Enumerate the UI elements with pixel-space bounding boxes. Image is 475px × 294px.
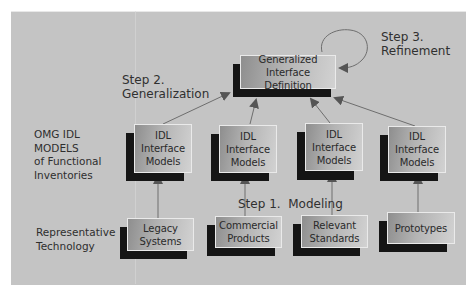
step3-title: Step 3.	[381, 30, 424, 44]
node-text: Standards	[310, 232, 360, 245]
node-text: Generalized	[241, 53, 335, 66]
node-text: Relevant	[310, 219, 360, 232]
node-text: Models	[226, 156, 270, 169]
row-label-line: Representative	[36, 226, 115, 238]
node-text: Models	[141, 155, 185, 168]
node-face: IDL Interface Models	[219, 125, 277, 173]
node-text: Models	[395, 156, 439, 169]
step2-label: Step 2. Generalization	[122, 73, 209, 101]
node-text: Interface	[141, 142, 185, 155]
node-text: Interface	[226, 143, 270, 156]
step2-subtitle: Generalization	[122, 87, 209, 101]
node-text: Legacy	[140, 222, 182, 235]
node-face: Legacy Systems	[127, 218, 194, 251]
node-text: IDL	[226, 130, 270, 143]
step1-label: Step 1. Modeling	[238, 197, 343, 211]
node-text: IDL	[312, 128, 356, 141]
row-label-line: Technology	[36, 240, 95, 252]
node-face: IDL Interface Models	[388, 126, 446, 173]
node-text: Interface Definition	[241, 66, 335, 92]
node-text: Prototypes	[395, 222, 447, 235]
node-face: Generalized Interface Definition	[240, 55, 336, 89]
step2-title: Step 2.	[122, 73, 165, 87]
node-face: IDL Interface Models	[305, 123, 363, 171]
node-text: IDL	[141, 129, 185, 142]
row-label-technology: Representative Technology	[36, 226, 115, 253]
row-label-line: of Functional	[34, 155, 101, 167]
row-label-idl-models: OMG IDL MODELS of Functional Inventories	[34, 128, 101, 182]
node-text: Interface	[395, 143, 439, 156]
row-label-line: Inventories	[34, 169, 93, 181]
step3-subtitle: Refinement	[381, 44, 450, 58]
row-label-line: MODELS	[34, 142, 79, 154]
node-face: Prototypes	[387, 212, 455, 244]
step3-label: Step 3. Refinement	[381, 30, 450, 58]
node-text: IDL	[395, 130, 439, 143]
node-text: Products	[219, 232, 278, 245]
node-text: Models	[312, 154, 356, 167]
node-text: Interface	[312, 141, 356, 154]
node-text: Commercial	[219, 219, 278, 232]
node-text: Systems	[140, 235, 182, 248]
node-face: IDL Interface Models	[134, 124, 192, 173]
node-face: Commercial Products	[215, 216, 282, 248]
row-label-line: OMG IDL	[34, 128, 80, 140]
node-face: Relevant Standards	[301, 215, 368, 248]
